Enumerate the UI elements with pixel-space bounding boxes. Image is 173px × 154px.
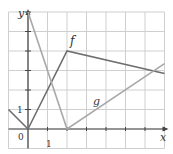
g-label: g bbox=[93, 95, 100, 108]
x-axis-label: x bbox=[160, 131, 167, 144]
y-axis-label: y bbox=[17, 7, 25, 20]
x-tick-1-label: 1 bbox=[46, 139, 52, 149]
function-graph: y x f g 0 1 1 bbox=[0, 0, 173, 154]
origin-label: 0 bbox=[18, 132, 24, 142]
f-label: f bbox=[69, 34, 77, 48]
y-tick-1-label: 1 bbox=[17, 105, 23, 115]
